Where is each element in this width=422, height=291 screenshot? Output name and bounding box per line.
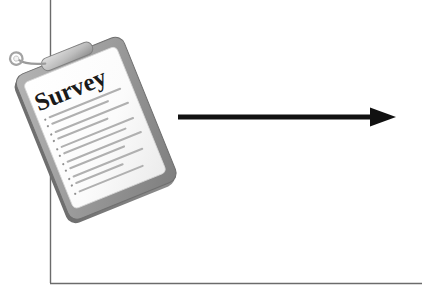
diagram-canvas: Survey Survey xyxy=(0,0,422,291)
diagram-svg: Survey xyxy=(0,0,422,291)
process-arrow[interactable] xyxy=(178,108,396,127)
arrow-head-icon xyxy=(370,108,396,127)
survey-clipboard[interactable]: Survey xyxy=(2,13,180,226)
